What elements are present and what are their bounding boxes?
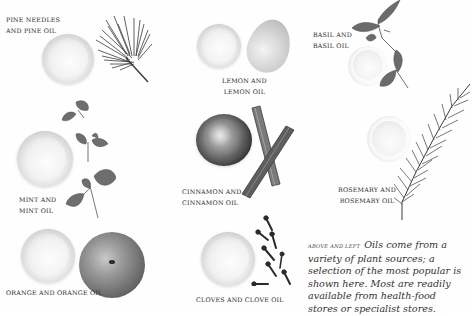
caption-cinnamon: Cinnamon and cinnamon oil — [182, 186, 242, 208]
lemon-oil-dish — [197, 24, 241, 68]
caption-line: cinnamon oil — [182, 197, 242, 208]
cinnamon-sticks-image — [240, 104, 298, 200]
caption-rosemary: Rosemary and rosemary oil — [338, 184, 396, 206]
mint-leaves-image — [58, 100, 116, 220]
caption-line: Cinnamon and — [182, 186, 242, 197]
pine-needles-image — [92, 10, 154, 84]
body-caption-lead: Above and left — [308, 243, 360, 249]
caption-line: lemon oil — [222, 86, 267, 97]
body-caption: Above and leftOils come from a variety o… — [308, 239, 468, 316]
caption-line: basil oil — [313, 40, 352, 51]
caption-line: Orange and orange oil — [6, 287, 102, 298]
caption-line: Lemon and — [222, 75, 267, 86]
rosemary-sprig-image — [394, 84, 472, 222]
cloves-image — [250, 214, 302, 286]
caption-pine: Pine needles and pine oil — [6, 14, 60, 36]
caption-mint: Mint and mint oil — [19, 194, 56, 216]
caption-lemon: Lemon and lemon oil — [222, 75, 267, 97]
caption-line: and pine oil — [6, 25, 60, 36]
body-caption-text: Oils come from a variety of plant source… — [308, 239, 461, 314]
clove-oil-dish — [201, 232, 255, 286]
caption-line: Pine needles — [6, 14, 60, 25]
orange-oil-dish — [21, 229, 75, 283]
caption-line: Rosemary and — [338, 184, 396, 195]
caption-line: mint oil — [19, 205, 56, 216]
lemon-image — [241, 14, 298, 78]
caption-basil: Basil and basil oil — [313, 29, 352, 51]
caption-cloves: Cloves and clove oil — [196, 294, 284, 305]
caption-line: rosemary oil — [338, 195, 396, 206]
caption-orange: Orange and orange oil — [6, 287, 102, 298]
caption-line: Basil and — [313, 29, 352, 40]
caption-line: Cloves and clove oil — [196, 294, 284, 305]
pine-oil-dish — [42, 34, 94, 84]
caption-line: Mint and — [19, 194, 56, 205]
